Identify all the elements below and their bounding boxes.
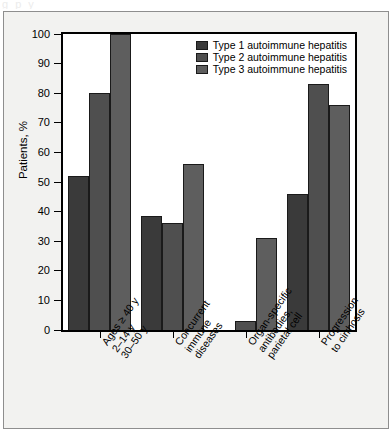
bar xyxy=(89,93,110,330)
y-axis-tick-label: 70 xyxy=(38,117,50,128)
y-axis-tick-label: 50 xyxy=(38,177,50,188)
y-axis-tick-mark xyxy=(54,34,61,35)
bars-layer xyxy=(63,34,355,330)
figure-frame: 0102030405060708090100 Patients, % Type … xyxy=(3,11,389,429)
y-axis-tick-label: 30 xyxy=(38,236,50,247)
y-axis-tick-mark xyxy=(54,330,61,331)
y-axis-tick-mark xyxy=(54,152,61,153)
y-axis-tick-mark xyxy=(54,270,61,271)
top-cutoff-text: g p y xyxy=(0,0,392,9)
y-axis-tick-label: 90 xyxy=(38,58,50,69)
bar-group xyxy=(63,34,136,330)
legend-label: Type 3 autoimmune hepatitis xyxy=(213,64,347,75)
y-axis-tick-mark xyxy=(54,211,61,212)
legend-swatch xyxy=(196,53,208,62)
y-axis-tick-mark xyxy=(54,182,61,183)
legend-label: Type 2 autoimmune hepatitis xyxy=(213,52,347,63)
y-axis: 0102030405060708090100 xyxy=(4,12,61,332)
y-axis-tick-label: 80 xyxy=(38,88,50,99)
bar xyxy=(68,176,89,330)
bar-group xyxy=(136,34,209,330)
y-axis-tick-mark xyxy=(54,241,61,242)
bar-group xyxy=(209,34,282,330)
y-axis-tick-label: 60 xyxy=(38,147,50,158)
legend-swatch xyxy=(196,41,208,50)
legend-item: Type 3 autoimmune hepatitis xyxy=(196,64,347,75)
bar xyxy=(162,223,183,330)
bar xyxy=(110,34,131,330)
y-axis-tick-label: 10 xyxy=(38,295,50,306)
y-axis-tick-label: 100 xyxy=(32,29,50,40)
y-axis-tick-mark xyxy=(54,93,61,94)
bar xyxy=(308,84,329,330)
y-axis-tick-label: 40 xyxy=(38,206,50,217)
legend-item: Type 2 autoimmune hepatitis xyxy=(196,52,347,63)
y-axis-tick-label: 20 xyxy=(38,265,50,276)
bar xyxy=(329,105,350,330)
y-axis-tick-mark xyxy=(54,300,61,301)
y-axis-tick-mark xyxy=(54,63,61,64)
y-axis-title: Patients, % xyxy=(17,95,29,205)
legend: Type 1 autoimmune hepatitisType 2 autoim… xyxy=(196,40,347,75)
legend-swatch xyxy=(196,65,208,74)
legend-label: Type 1 autoimmune hepatitis xyxy=(213,40,347,51)
bar-chart: 0102030405060708090100 Patients, % Type … xyxy=(4,12,388,428)
x-axis: Ages ≥ 40 y2–14 y30–50 yConcurrentimmune… xyxy=(61,332,357,428)
y-axis-tick-mark xyxy=(54,122,61,123)
legend-item: Type 1 autoimmune hepatitis xyxy=(196,40,347,51)
plot-area: Type 1 autoimmune hepatitisType 2 autoim… xyxy=(61,32,357,332)
bar-group xyxy=(282,34,355,330)
y-axis-tick-label: 0 xyxy=(44,325,50,336)
